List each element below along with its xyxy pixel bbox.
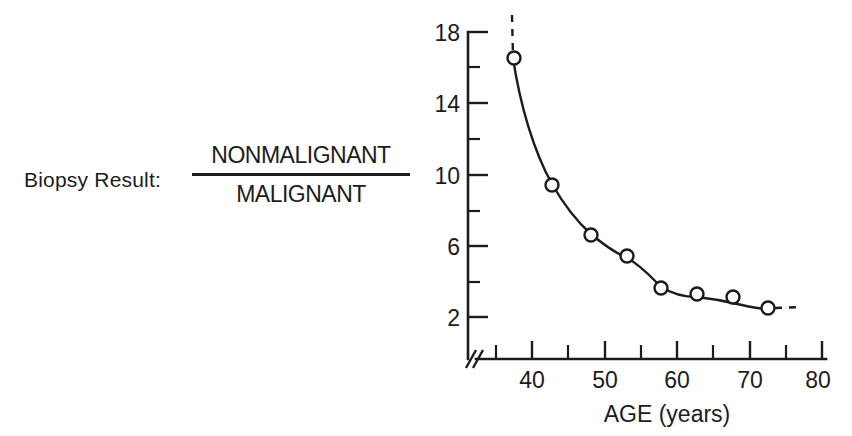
fraction-bar (192, 173, 410, 176)
y-tick-labels: 18 14 10 6 2 (434, 20, 460, 331)
y-tick-label-6: 6 (447, 234, 460, 260)
x-tick-label-70: 70 (737, 367, 763, 393)
x-tick-label-60: 60 (664, 367, 690, 393)
x-tick-marks (496, 341, 822, 359)
data-point-marker (727, 291, 740, 304)
plot-area: 18 14 10 6 2 40 50 (430, 0, 852, 436)
y-tick-label-10: 10 (434, 163, 460, 189)
x-tick-label-40: 40 (519, 367, 545, 393)
ratio-numerator: NONMALIGNANT (192, 140, 410, 170)
y-tick-label-14: 14 (434, 91, 460, 117)
y-tick-label-18: 18 (434, 20, 460, 46)
axes (466, 32, 826, 368)
ratio-fraction: NONMALIGNANT MALIGNANT (192, 140, 410, 209)
data-point-marker (508, 52, 521, 65)
data-point-marker (546, 179, 559, 192)
y-tick-label-2: 2 (447, 305, 460, 331)
data-point-marker (621, 250, 634, 263)
y-axis-label-block: Biopsy Result: NONMALIGNANT MALIGNANT (0, 140, 430, 230)
right-dashed-extension (775, 307, 802, 308)
figure-panel: Biopsy Result: NONMALIGNANT MALIGNANT (0, 0, 852, 436)
y-tick-marks (468, 32, 488, 317)
biopsy-result-label: Biopsy Result: (24, 168, 161, 192)
ratio-denominator: MALIGNANT (192, 179, 410, 209)
x-tick-label-50: 50 (592, 367, 618, 393)
data-point-marker (655, 282, 668, 295)
x-axis-title: AGE (years) (604, 401, 731, 427)
data-point-markers (508, 52, 775, 315)
x-tick-labels: 40 50 60 70 80 (519, 367, 831, 393)
data-point-marker (585, 229, 598, 242)
x-tick-label-80: 80 (805, 367, 831, 393)
data-point-marker (691, 288, 704, 301)
chart-svg: 18 14 10 6 2 40 50 (430, 0, 852, 436)
data-point-marker (762, 302, 775, 315)
